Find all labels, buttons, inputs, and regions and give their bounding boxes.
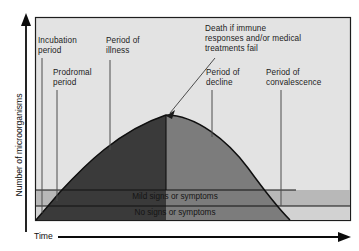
y-axis-arrowhead-icon (21, 13, 31, 26)
label-period-of-convalescence: Period of convalescence (266, 68, 321, 88)
x-axis-title: Time (34, 231, 53, 241)
label-no-signs-or-symptoms: No signs or symptoms (110, 208, 240, 217)
label-incubation-period: Incubation period (38, 36, 77, 56)
figure-container: Incubation period Prodromal period Perio… (0, 0, 359, 251)
label-period-of-illness: Period of illness (106, 36, 140, 56)
label-prodromal-period: Prodromal period (53, 68, 92, 88)
label-period-of-decline: Period of decline (206, 68, 240, 88)
x-axis-arrowhead-icon (338, 232, 351, 242)
label-death-if-immune-fails: Death if immune responses and/or medical… (205, 24, 301, 54)
y-axis-title: Number of microorganisms (14, 90, 24, 200)
label-mild-signs-or-symptoms: Mild signs or symptoms (110, 192, 240, 201)
